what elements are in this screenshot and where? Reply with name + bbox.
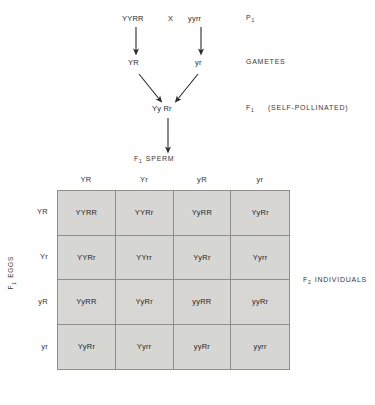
punnett-cell: yyRr bbox=[231, 280, 289, 325]
eggs-axis-label: F1EGGS bbox=[7, 243, 16, 303]
cross-symbol: X bbox=[168, 14, 173, 23]
punnett-cell-genotype: yyrr bbox=[253, 342, 266, 351]
punnett-cell-genotype: yyRr bbox=[252, 297, 268, 306]
parental-generation-label: P1 bbox=[246, 14, 254, 23]
punnett-cell: yyrr bbox=[231, 325, 289, 370]
punnett-cell: YYrr bbox=[116, 236, 174, 281]
punnett-cell-genotype: Yyrr bbox=[137, 342, 152, 351]
punnett-square-grid: YYRR YYRr YyRR YyRr YYRr YYrr YyRr Yyrr … bbox=[57, 190, 290, 370]
punnett-cell-genotype: yyRR bbox=[192, 297, 211, 306]
f2-individuals-label: F2INDIVIDUALS bbox=[303, 276, 367, 285]
column-header-2: yR bbox=[173, 175, 231, 184]
sperm-axis-label: F1SPERM bbox=[134, 155, 174, 164]
row-header-0: YR bbox=[18, 207, 48, 216]
row-header-1: Yr bbox=[18, 252, 48, 261]
column-header-0: YR bbox=[57, 175, 115, 184]
punnett-cell: YyRr bbox=[174, 236, 232, 281]
parental-generation-subscript: 1 bbox=[251, 17, 254, 23]
parent2-genotype: yyrr bbox=[188, 14, 201, 23]
punnett-cell: YyRR bbox=[174, 191, 232, 236]
punnett-cell-genotype: YyRR bbox=[192, 208, 212, 217]
parent1-genotype: YYRR bbox=[122, 14, 144, 23]
f2-individuals-text: INDIVIDUALS bbox=[315, 276, 367, 283]
punnett-cell-genotype: YyRr bbox=[78, 342, 95, 351]
f1-generation-label: F1 bbox=[246, 104, 254, 113]
punnett-cell: YyRr bbox=[231, 191, 289, 236]
punnett-cell: YyRR bbox=[58, 280, 116, 325]
row-header-3: yr bbox=[18, 342, 48, 351]
sperm-axis-text: SPERM bbox=[146, 155, 175, 162]
gamete-female: yr bbox=[195, 58, 202, 67]
punnett-cell-genotype: YyRR bbox=[76, 297, 96, 306]
punnett-cell-genotype: Yyrr bbox=[253, 253, 268, 262]
punnett-cell-genotype: YYRR bbox=[76, 208, 98, 217]
column-header-1: Yr bbox=[115, 175, 173, 184]
diagram-canvas: YYRR X yyrr P1 YR yr GAMETES Yy Rr F1 (S… bbox=[0, 0, 375, 405]
punnett-cell: yyRr bbox=[174, 325, 232, 370]
punnett-cell: Yyrr bbox=[116, 325, 174, 370]
f1-generation-subscript: 1 bbox=[251, 107, 254, 113]
punnett-cell-genotype: yyRr bbox=[194, 342, 210, 351]
f1-self-pollinated-note: (SELF-POLLINATED) bbox=[268, 104, 348, 111]
punnett-cell-genotype: YyRr bbox=[193, 253, 210, 262]
sperm-generation-subscript: 1 bbox=[139, 158, 142, 164]
gamete-male: YR bbox=[128, 58, 139, 67]
punnett-cell-genotype: YYrr bbox=[136, 253, 152, 262]
punnett-cell-genotype: YYRr bbox=[77, 253, 96, 262]
punnett-cell: yyRR bbox=[174, 280, 232, 325]
column-header-3: yr bbox=[231, 175, 289, 184]
punnett-cell: YYRr bbox=[58, 236, 116, 281]
eggs-generation-letter: F bbox=[7, 285, 14, 290]
punnett-cell: YyRr bbox=[58, 325, 116, 370]
punnett-cell: Yyrr bbox=[231, 236, 289, 281]
row-header-2: yR bbox=[18, 297, 48, 306]
eggs-generation-subscript: 1 bbox=[11, 282, 17, 285]
punnett-cell: YyRr bbox=[116, 280, 174, 325]
punnett-cell: YYRr bbox=[116, 191, 174, 236]
eggs-axis-text: EGGS bbox=[7, 256, 14, 278]
punnett-cell-genotype: YyRr bbox=[251, 208, 268, 217]
punnett-cell: YYRR bbox=[58, 191, 116, 236]
punnett-cell-genotype: YYRr bbox=[135, 208, 154, 217]
f2-generation-subscript: 2 bbox=[308, 279, 311, 285]
punnett-cell-genotype: YyRr bbox=[135, 297, 152, 306]
gametes-stage-label: GAMETES bbox=[246, 58, 285, 65]
f1-genotype: Yy Rr bbox=[152, 104, 172, 113]
